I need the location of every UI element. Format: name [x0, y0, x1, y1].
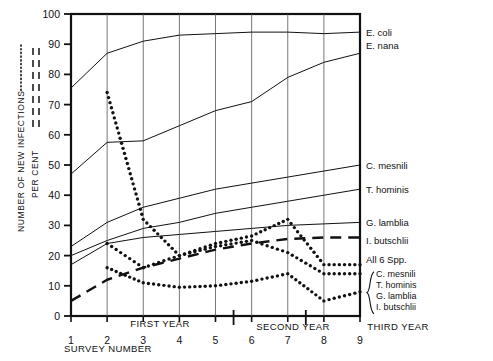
data-dot — [338, 272, 341, 275]
data-dot — [229, 242, 232, 245]
series-label-e-nana: E. nana — [366, 40, 399, 51]
figure-container: 0102030405060708090100 123456789 E. coli… — [0, 0, 493, 361]
data-dot — [302, 284, 305, 287]
data-dot — [277, 222, 280, 225]
data-dot — [131, 182, 134, 185]
data-dot — [276, 247, 279, 250]
data-dot — [198, 249, 201, 252]
y-tick-label: 20 — [48, 250, 60, 262]
data-dot — [224, 243, 227, 246]
data-dot — [203, 247, 206, 250]
data-dot — [160, 236, 163, 239]
data-dot — [286, 272, 289, 275]
series-label-all-6-spp-: All 6 Spp. — [366, 254, 407, 265]
y-tick-label: 50 — [48, 159, 60, 171]
data-dot — [152, 229, 155, 232]
data-dot — [254, 232, 257, 235]
data-dot — [173, 256, 176, 259]
series-label-c-mesnili: C. mesnili — [366, 160, 408, 171]
series-g-dotted — [105, 266, 361, 303]
data-dot — [234, 238, 237, 241]
period-label-third: THIRD YEAR — [367, 321, 428, 332]
data-dot — [348, 293, 351, 296]
data-dot — [245, 240, 248, 243]
data-dot — [174, 250, 177, 253]
data-dot — [234, 241, 237, 244]
series-label-i-butschlii: I. butschlii — [366, 235, 408, 246]
data-dot — [136, 197, 139, 200]
data-dot — [170, 247, 173, 250]
x-tick-label: 9 — [357, 334, 363, 346]
data-dot — [142, 281, 145, 284]
data-dot — [343, 272, 346, 275]
data-dot — [209, 246, 212, 249]
x-tick-label: 4 — [176, 334, 182, 346]
data-dot — [314, 293, 317, 296]
data-dot — [157, 261, 160, 264]
data-dot — [224, 283, 227, 286]
data-dot — [183, 285, 186, 288]
data-dot — [193, 250, 196, 253]
data-dot — [281, 273, 284, 276]
vertical-gridlines — [107, 14, 324, 316]
data-dot — [327, 298, 330, 301]
data-dot — [209, 284, 212, 287]
data-dot — [123, 254, 126, 257]
data-dot — [167, 284, 170, 287]
x-tick-label: 5 — [213, 334, 219, 346]
data-dot — [142, 218, 145, 221]
x-tick-label: 6 — [249, 334, 255, 346]
data-dot — [193, 285, 196, 288]
data-dot — [108, 101, 111, 104]
data-dot — [240, 281, 243, 284]
data-dot — [133, 260, 136, 263]
data-dot — [229, 282, 232, 285]
data-dot — [119, 272, 122, 275]
y-tick-label: 10 — [48, 280, 60, 292]
x-tick-label: 7 — [285, 334, 291, 346]
data-dot — [133, 187, 136, 190]
period-label-first: FIRST YEAR — [130, 318, 190, 329]
data-dot — [304, 261, 307, 264]
data-dot — [353, 291, 356, 294]
data-dot — [121, 147, 124, 150]
data-dot — [183, 253, 186, 256]
data-dot — [299, 234, 302, 237]
data-dot — [142, 266, 145, 269]
y-tick-label: 0 — [54, 310, 60, 322]
data-dot — [255, 241, 258, 244]
data-dot — [291, 254, 294, 257]
data-dot — [118, 136, 121, 139]
data-dot — [302, 238, 305, 241]
data-dot — [353, 263, 356, 266]
data-dot — [105, 242, 108, 245]
data-dot — [133, 277, 136, 280]
data-dot — [310, 290, 313, 293]
data-dot — [162, 259, 165, 262]
data-dot — [219, 241, 222, 244]
data-dot — [198, 285, 201, 288]
data-dot — [240, 241, 243, 244]
data-dot — [322, 272, 325, 275]
data-dot — [327, 263, 330, 266]
data-dot — [296, 230, 299, 233]
data-dot — [255, 278, 258, 281]
data-dot — [245, 280, 248, 283]
data-dot — [188, 251, 191, 254]
data-dot — [120, 142, 123, 145]
data-dot — [271, 275, 274, 278]
data-dot — [259, 230, 262, 233]
data-dot — [318, 296, 321, 299]
data-dot — [178, 286, 181, 289]
data-dot — [276, 274, 279, 277]
series-label-t-hominis: T. hominis — [366, 184, 409, 195]
data-dot — [260, 277, 263, 280]
data-dot — [167, 257, 170, 260]
data-dot — [358, 263, 361, 266]
data-dot — [273, 224, 276, 227]
data-dot — [338, 295, 341, 298]
data-dot — [127, 167, 130, 170]
data-dot — [322, 263, 325, 266]
data-dot — [333, 272, 336, 275]
data-dot — [271, 246, 274, 249]
